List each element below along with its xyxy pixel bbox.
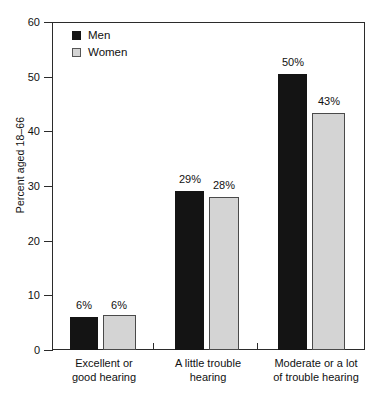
x-category-label-2-line2: hearing xyxy=(152,371,264,385)
legend-swatch-men-icon xyxy=(72,31,81,40)
x-category-label-2-line1: A little trouble xyxy=(152,357,264,371)
legend: Men Women xyxy=(72,27,127,61)
bar-men-a-little-trouble-hearing xyxy=(175,191,204,350)
x-axis-separator-2 xyxy=(257,343,258,350)
x-axis-separator-1 xyxy=(153,343,154,350)
y-tick-mark-10 xyxy=(44,295,53,296)
y-tick-label-60: 60 xyxy=(12,17,40,28)
y-tick-mark-30 xyxy=(44,186,53,187)
bar-chart: Percent aged 18–66 0 10 20 30 40 50 60 6… xyxy=(0,0,383,397)
y-tick-mark-60 xyxy=(44,22,53,23)
x-category-label-3-line2: of trouble hearing xyxy=(255,371,377,385)
bar-women-moderate-or-a-lot-of-trouble-hearing xyxy=(312,113,345,350)
y-tick-label-40: 40 xyxy=(12,126,40,137)
y-tick-label-0: 0 xyxy=(12,345,40,356)
y-tick-label-20: 20 xyxy=(12,236,40,247)
y-tick-mark-0 xyxy=(44,350,53,351)
y-tick-label-50: 50 xyxy=(12,72,40,83)
legend-label-men: Men xyxy=(88,30,110,42)
bar-women-excellent-or-good-hearing xyxy=(103,315,136,350)
legend-item-men: Men xyxy=(72,27,127,44)
bar-label-women-excellent: 6% xyxy=(96,300,142,311)
bar-label-women-moderate: 43% xyxy=(305,96,353,107)
y-tick-mark-50 xyxy=(44,77,53,78)
y-tick-label-10: 10 xyxy=(12,290,40,301)
legend-swatch-women-icon xyxy=(72,48,81,57)
x-category-label-2: A little trouble hearing xyxy=(152,357,264,384)
y-tick-mark-40 xyxy=(44,131,53,132)
legend-label-women: Women xyxy=(88,47,127,59)
y-tick-mark-20 xyxy=(44,241,53,242)
legend-item-women: Women xyxy=(72,44,127,61)
y-tick-label-30: 30 xyxy=(12,181,40,192)
x-category-label-3-line1: Moderate or a lot xyxy=(255,357,377,371)
x-category-label-1-line1: Excellent or xyxy=(48,357,160,371)
x-category-label-3: Moderate or a lot of trouble hearing xyxy=(255,357,377,384)
bar-label-women-little-trouble: 28% xyxy=(200,180,248,191)
x-category-label-1: Excellent or good hearing xyxy=(48,357,160,384)
bar-women-a-little-trouble-hearing xyxy=(209,197,239,350)
bar-men-excellent-or-good-hearing xyxy=(70,317,98,350)
y-axis-title: Percent aged 18–66 xyxy=(14,0,28,330)
bar-label-men-moderate: 50% xyxy=(269,57,317,68)
x-category-label-1-line2: good hearing xyxy=(48,371,160,385)
bar-men-moderate-or-a-lot-of-trouble-hearing xyxy=(278,74,307,350)
